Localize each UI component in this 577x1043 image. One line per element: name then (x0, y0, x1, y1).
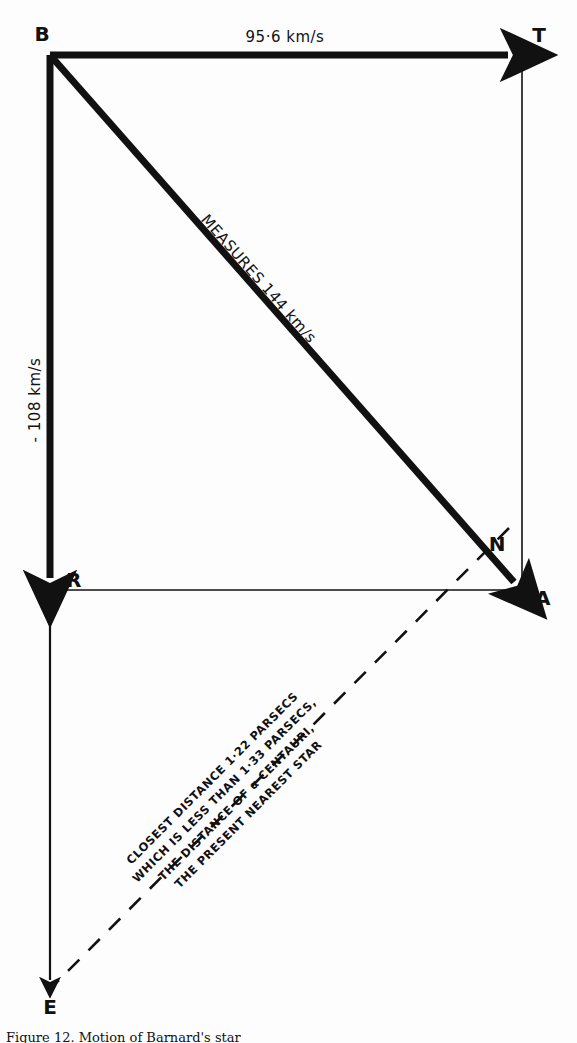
label-space-velocity: MEASURES 144 km/s (197, 211, 320, 347)
diagram-canvas: B T R A N E 95·6 km/s - 108 km/s MEASURE… (0, 0, 577, 1043)
vertex-label-R: R (66, 568, 81, 592)
vertex-label-B: B (34, 22, 49, 46)
vertex-label-N: N (489, 532, 506, 556)
annotation-line-2: WHICH IS LESS THAN 1·33 PARSECS, (129, 695, 319, 885)
figure-caption: Figure 12. Motion of Barnard's star (6, 1030, 241, 1043)
label-tangential-velocity: 95·6 km/s (246, 28, 325, 46)
vector-diagram-figure: B T R A N E 95·6 km/s - 108 km/s MEASURE… (0, 0, 577, 1043)
vertex-label-E: E (43, 995, 57, 1019)
vertex-label-A: A (535, 586, 551, 610)
vertex-label-T: T (532, 23, 546, 47)
closest-distance-annotation: CLOSEST DISTANCE 1·22 PARSECS WHICH IS L… (117, 683, 343, 909)
label-radial-velocity: - 108 km/s (26, 358, 44, 443)
